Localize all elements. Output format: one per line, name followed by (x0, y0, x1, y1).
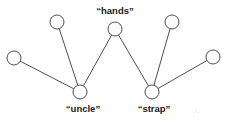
graph-node-label: “uncle” (66, 103, 100, 114)
graph-edge (119, 35, 149, 86)
graph-edge (83, 35, 111, 86)
graph-edge (158, 60, 207, 88)
scan-speck (196, 110, 197, 111)
graph-node (206, 50, 220, 64)
graph-edge (154, 29, 170, 86)
graph-node (145, 85, 159, 99)
graph-diagram-figure: “hands”“uncle”“strap” (0, 0, 230, 124)
edge-layer (20, 29, 207, 89)
graph-node (50, 15, 64, 29)
graph-edge (59, 29, 78, 86)
graph-node (165, 15, 179, 29)
graph-node (73, 85, 87, 99)
node-layer (7, 15, 220, 99)
graph-canvas (0, 0, 230, 124)
graph-edge (20, 61, 74, 89)
graph-node (108, 22, 122, 36)
graph-node-label: “strap” (138, 103, 171, 114)
scan-speck (198, 112, 199, 113)
graph-node (7, 51, 21, 65)
graph-node-label: “hands” (96, 5, 133, 16)
